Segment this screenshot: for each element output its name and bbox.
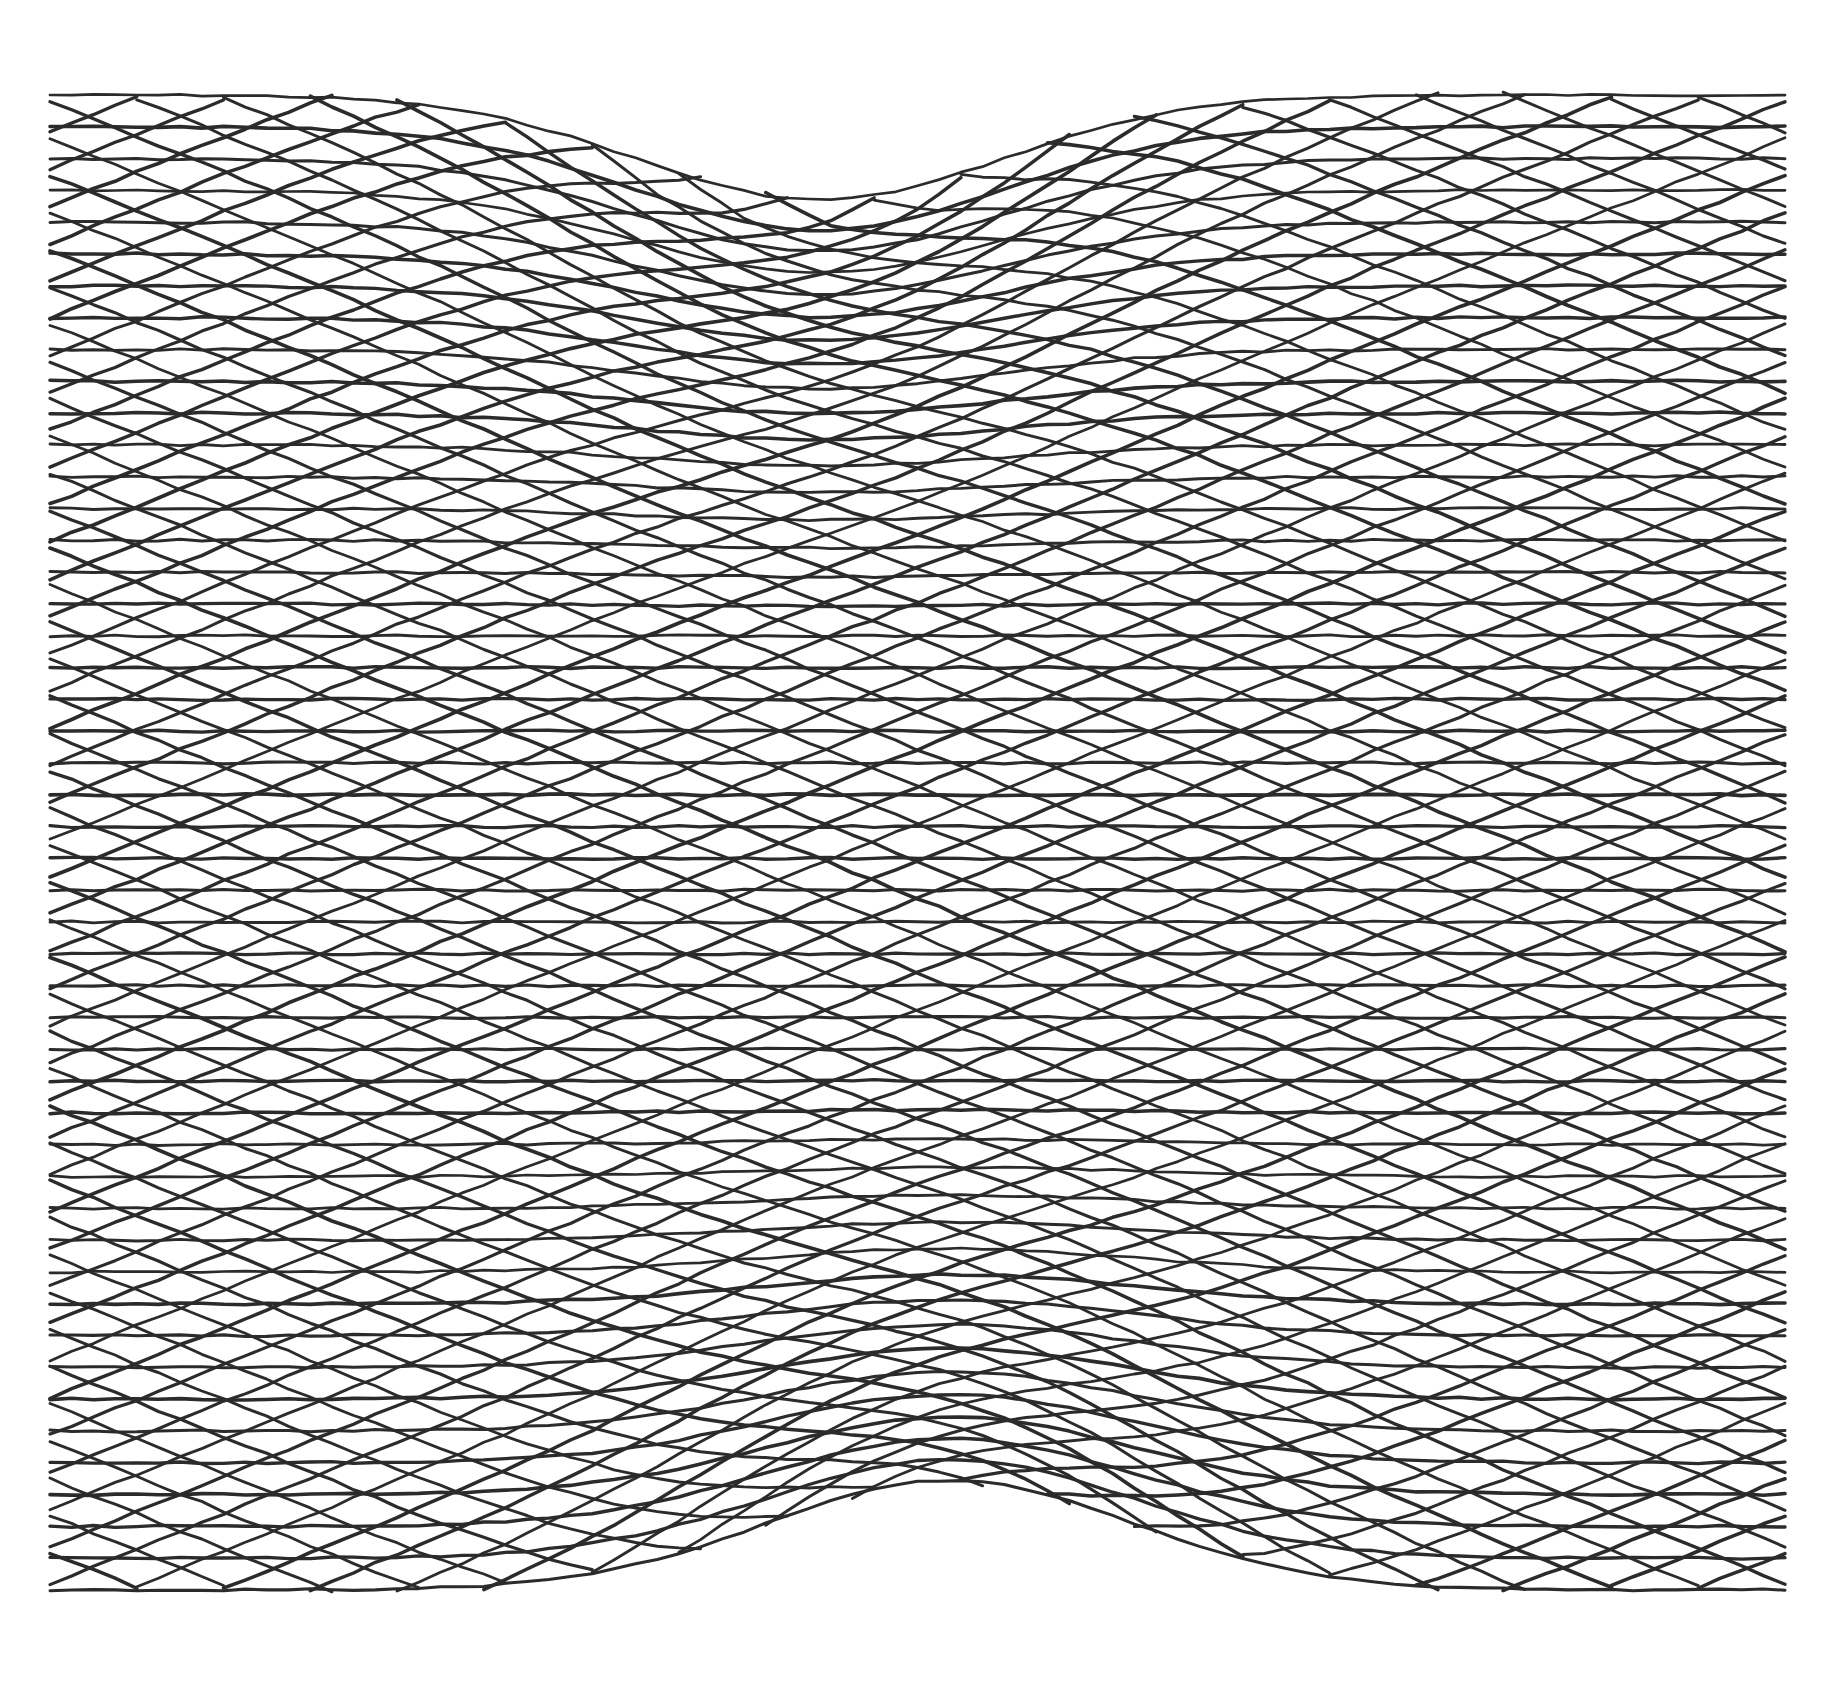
ink-line: [50, 857, 1785, 859]
ink-line: [50, 1017, 1785, 1019]
ink-line: [50, 826, 1785, 828]
ink-line: [50, 889, 1785, 891]
ink-line: [50, 1080, 1785, 1082]
ink-line: [50, 953, 1785, 955]
ink-line: [50, 794, 1785, 796]
ink-line: [50, 667, 1785, 669]
moire-line-drawing: [0, 0, 1837, 1693]
